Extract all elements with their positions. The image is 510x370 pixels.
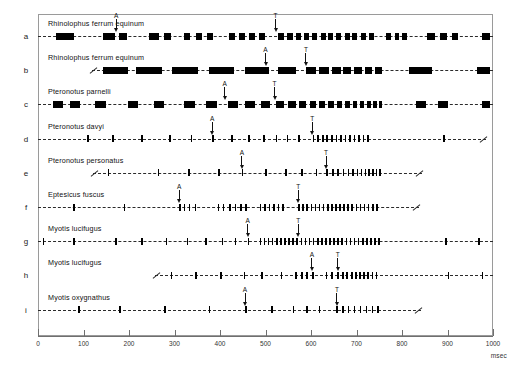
pulse <box>239 33 245 40</box>
pulse <box>332 169 334 176</box>
pulse <box>326 135 328 142</box>
pulse <box>265 169 267 176</box>
phase-marker-t-row-i: T <box>330 287 344 306</box>
axis-tick <box>129 330 130 336</box>
pulse <box>355 272 357 279</box>
phase-marker-arrowhead <box>177 199 181 203</box>
pulse <box>261 101 270 108</box>
pulse <box>191 135 193 142</box>
pulse <box>319 204 321 211</box>
pulse <box>231 135 233 142</box>
phase-marker-arrowhead <box>114 28 118 32</box>
phase-marker-label: A <box>259 47 273 53</box>
axis-tick <box>266 330 267 336</box>
pulse <box>360 204 362 211</box>
axis-line <box>38 336 493 337</box>
pulse <box>323 204 325 211</box>
pulse <box>311 204 313 211</box>
phase-marker-t-row-d: T <box>305 116 319 135</box>
pulse <box>326 272 328 279</box>
pulse <box>288 238 290 245</box>
phase-marker-a-row-a: A <box>109 13 123 32</box>
phase-marker-stem <box>336 293 337 302</box>
trace-break-slash-end-e <box>416 170 424 176</box>
pulse <box>336 33 341 40</box>
pulse <box>245 204 247 211</box>
pulse <box>379 169 381 176</box>
pulse <box>263 135 265 142</box>
pulse <box>372 204 374 211</box>
pulse <box>115 238 117 245</box>
pulse <box>354 135 356 142</box>
pulse <box>119 306 121 313</box>
pulse <box>373 101 376 108</box>
pulse <box>103 33 115 40</box>
phase-marker-t-row-a: T <box>269 13 283 32</box>
phase-marker-arrowhead <box>210 131 214 135</box>
pulse <box>248 238 250 245</box>
phase-marker-a-row-c: A <box>218 81 232 100</box>
phase-marker-a-row-f: A <box>172 184 186 203</box>
pulse <box>242 169 244 176</box>
pulse <box>343 204 345 211</box>
pulse <box>358 135 360 142</box>
pulse <box>395 33 399 40</box>
phase-marker-a-row-g: A <box>241 218 255 237</box>
pulse <box>306 272 308 279</box>
pulse <box>322 135 324 142</box>
phase-marker-label: T <box>319 150 333 156</box>
pulse <box>298 204 300 211</box>
pulse <box>149 33 159 40</box>
axis-tick-label: 500 <box>260 340 271 347</box>
pulse <box>189 204 191 211</box>
pulse <box>309 238 311 245</box>
pulse <box>205 238 207 245</box>
pulse <box>337 272 339 279</box>
pulse <box>319 101 325 108</box>
pulse <box>119 33 126 40</box>
phase-marker-a-row-d: A <box>205 116 219 135</box>
pulse <box>348 306 350 313</box>
pulse <box>482 33 490 40</box>
pulse <box>354 67 362 74</box>
pulse <box>154 101 164 108</box>
pulse <box>218 204 220 211</box>
pulse <box>341 238 343 245</box>
pulse <box>448 272 450 279</box>
species-label-g: Myotis lucifugus <box>48 224 102 233</box>
pulse <box>328 101 333 108</box>
pulse <box>298 135 300 142</box>
trace-break-slash-end-d <box>480 136 488 142</box>
phase-marker-stem <box>241 156 242 165</box>
pulse <box>452 33 458 40</box>
pulse <box>337 101 342 108</box>
pulse <box>184 204 186 211</box>
phase-marker-stem <box>298 190 299 199</box>
pulse <box>70 101 80 108</box>
pulse <box>360 306 362 313</box>
pulse <box>345 101 350 108</box>
axis-unit-label: msec <box>491 352 507 359</box>
pulse <box>296 238 298 245</box>
pulse <box>378 238 380 245</box>
pulse <box>240 204 242 211</box>
pulse <box>108 169 110 176</box>
pulse <box>366 238 368 245</box>
phase-marker-arrowhead <box>273 96 277 100</box>
phase-marker-stem <box>312 122 313 131</box>
phase-marker-stem <box>311 258 312 267</box>
pulse <box>332 67 341 74</box>
pulse <box>53 101 63 108</box>
phase-marker-stem <box>326 156 327 165</box>
phase-marker-label: A <box>205 116 219 122</box>
pulse <box>244 272 246 279</box>
pulse <box>443 135 445 142</box>
pulse <box>331 135 333 142</box>
pulse <box>301 272 303 279</box>
pulse <box>282 204 284 211</box>
baseline-h <box>155 275 493 276</box>
pulse-train-row-i <box>0 304 510 316</box>
phase-marker-arrowhead <box>296 199 300 203</box>
species-label-a: Rhinolophus ferrum equinum <box>48 19 144 28</box>
pulse <box>207 33 213 40</box>
